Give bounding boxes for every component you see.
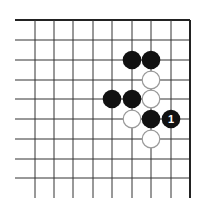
move-number-label: 1 — [168, 113, 174, 125]
white-stone — [142, 90, 160, 108]
black-stone — [103, 90, 122, 109]
black-stone — [123, 51, 142, 70]
white-stone — [142, 71, 160, 89]
black-stone — [142, 110, 161, 129]
white-stone — [142, 130, 160, 148]
black-stone — [123, 90, 142, 109]
black-stone — [142, 51, 161, 70]
go-board-diagram: 1 — [0, 0, 202, 214]
go-board-svg: 1 — [0, 0, 202, 214]
white-stone — [123, 110, 141, 128]
